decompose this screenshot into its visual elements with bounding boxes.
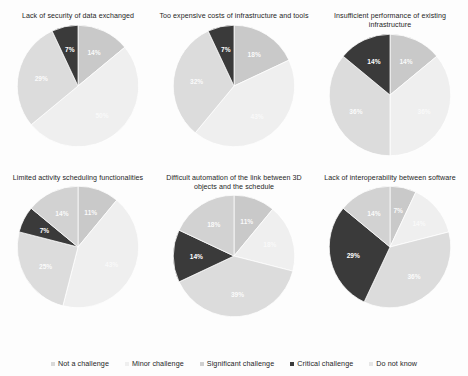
pie-svg-1 — [16, 24, 140, 148]
legend-item-do-not-know: Do not know — [369, 359, 417, 368]
legend-swatch-icon — [290, 362, 294, 366]
pie-title-4: Limited activity scheduling functionalit… — [3, 174, 153, 183]
legend-label: Not a challenge — [58, 359, 109, 368]
legend-label: Significant challenge — [207, 359, 274, 368]
legend-swatch-icon — [200, 362, 204, 366]
pie-wrap-4: 11%43%25%7%14% — [16, 185, 140, 309]
pie-chart-cell-3: Insufficient performance of existing inf… — [312, 0, 468, 168]
legend-item-minor-challenge: Minor challenge — [125, 359, 184, 368]
pie-svg-3 — [328, 33, 452, 157]
pie-chart-grid: Lack of security of data exchanged 14%50… — [0, 0, 468, 328]
pie-chart-cell-4: Limited activity scheduling functionalit… — [0, 168, 156, 328]
pie-wrap-2: 18%43%32%7% — [172, 24, 296, 148]
pie-chart-cell-2: Too expensive costs of infrastructure an… — [156, 0, 312, 168]
pie-wrap-5: 11%18%39%14%18% — [172, 194, 296, 318]
pie-chart-cell-1: Lack of security of data exchanged 14%50… — [0, 0, 156, 168]
chart-legend: Not a challenge Minor challenge Signific… — [0, 359, 468, 368]
pie-title-1: Lack of security of data exchanged — [3, 12, 153, 21]
pie-svg-6 — [328, 185, 452, 309]
legend-label: Minor challenge — [132, 359, 184, 368]
pie-wrap-6: 7%14%36%29%14% — [328, 185, 452, 309]
legend-item-significant-challenge: Significant challenge — [200, 359, 274, 368]
pie-title-3: Insufficient performance of existing inf… — [315, 12, 465, 30]
legend-label: Critical challenge — [297, 359, 353, 368]
pie-svg-4 — [16, 185, 140, 309]
legend-swatch-icon — [51, 362, 55, 366]
legend-item-critical-challenge: Critical challenge — [290, 359, 353, 368]
legend-label: Do not know — [376, 359, 417, 368]
pie-title-5: Difficult automation of the link between… — [159, 174, 309, 192]
pie-title-2: Too expensive costs of infrastructure an… — [159, 12, 309, 21]
legend-swatch-icon — [125, 362, 129, 366]
pie-wrap-1: 14%50%29%7% — [16, 24, 140, 148]
pie-svg-5 — [172, 194, 296, 318]
pie-svg-2 — [172, 24, 296, 148]
pie-chart-cell-6: Lack of interoperability between softwar… — [312, 168, 468, 328]
pie-title-6: Lack of interoperability between softwar… — [315, 174, 465, 183]
legend-swatch-icon — [369, 362, 373, 366]
legend-item-not-a-challenge: Not a challenge — [51, 359, 109, 368]
pie-chart-cell-5: Difficult automation of the link between… — [156, 168, 312, 328]
pie-wrap-3: 14%36%36%14% — [328, 33, 452, 157]
pie-chart-figure: Lack of security of data exchanged 14%50… — [0, 0, 468, 376]
